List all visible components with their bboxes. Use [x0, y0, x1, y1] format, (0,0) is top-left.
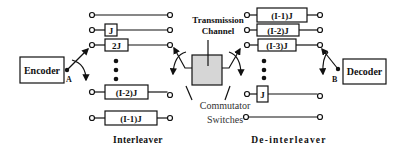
- decoder-block: Decoder: [343, 59, 386, 84]
- encoder-label: Encoder: [24, 65, 61, 76]
- point-b-dot: [336, 67, 340, 71]
- convolutional-interleaver-diagram: Encoder A J 2J (I-2)J: [0, 0, 406, 151]
- deinterleaver-ellipsis-dots: [262, 59, 267, 81]
- commutator-label-line1: Commutator: [200, 100, 251, 111]
- interleaver-delay-label: 2J: [112, 41, 122, 51]
- commutator-pointer-right: [225, 86, 230, 100]
- decoder-label: Decoder: [347, 66, 383, 77]
- deinterleaver-title: De-interleaver: [251, 135, 326, 145]
- interleaver-delay-label: (I-2)J: [116, 88, 138, 98]
- deinterleaver-row-2: (I-3)J: [245, 39, 323, 51]
- deinterleaver-output-commutator-icon: [322, 49, 338, 74]
- commutator-pointer-left: [186, 86, 192, 100]
- interleaver-row-2: 2J: [90, 39, 173, 51]
- interleaver-ellipsis-dots: [114, 59, 119, 82]
- interleaver-row-0: [90, 13, 173, 18]
- interleaver-row-3: (I-2)J: [90, 85, 173, 99]
- point-a-label: A: [66, 75, 72, 84]
- interleaver-delay-label: (I-1)J: [120, 114, 142, 124]
- deinterleaver-delay-label: J: [260, 90, 265, 100]
- deinterleaver-delay-label: (I-2)J: [267, 26, 289, 36]
- channel-label-line2: Channel: [202, 26, 235, 36]
- interleaver-title: Interleaver: [113, 135, 163, 145]
- deinterleaver-row-3: J: [245, 86, 323, 102]
- interleaver-delay-label: J: [109, 26, 114, 36]
- deinterleaver-delay-label: (I-3)J: [266, 41, 288, 51]
- deinterleaver-row-1: (I-2)J: [245, 24, 323, 36]
- encoder-block: Encoder: [20, 57, 64, 83]
- commutator-label-line2: Switches: [207, 114, 243, 125]
- interleaver-output-commutator-icon: [173, 48, 192, 74]
- point-b-label: B: [332, 75, 338, 84]
- interleaver-row-4: (I-1)J: [90, 111, 173, 125]
- deinterleaver-row-4: [244, 115, 323, 120]
- transmission-channel-block: [192, 40, 222, 85]
- deinterleaver-input-commutator-icon: [222, 49, 241, 75]
- deinterleaver-delay-label: (I-1)J: [271, 11, 293, 21]
- interleaver-row-1: J: [90, 24, 173, 36]
- channel-label-line1: Transmission: [192, 15, 243, 25]
- deinterleaver-row-0: (I-1)J: [245, 8, 323, 22]
